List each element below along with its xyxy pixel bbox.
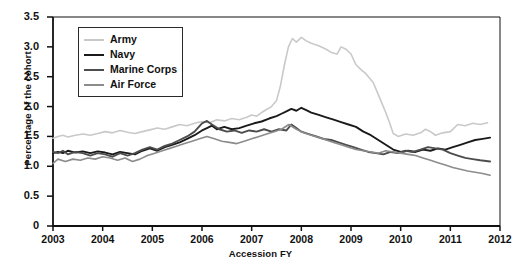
x-tick-label: 2006 [179,233,225,245]
legend-label: Navy [110,48,135,61]
y-tick-label: 3.0 [5,40,39,52]
x-tick-label: 2010 [378,233,424,245]
series-line-marine-corps [53,121,490,162]
legend-item: Air Force [84,77,176,92]
legend-label: Air Force [110,78,156,91]
legend-label: Army [110,33,137,46]
legend-swatch-marine-corps [84,69,104,71]
x-tick-label: 2003 [30,233,76,245]
chart-container: Percentage of the cohort Accession FY 00… [0,0,521,269]
x-tick-label: 2012 [477,233,521,245]
legend-swatch-army [84,39,104,41]
x-tick-label: 2008 [278,233,324,245]
x-tick-label: 2011 [427,233,473,245]
legend-label: Marine Corps [110,63,177,76]
x-tick-label: 2005 [129,233,175,245]
y-tick-label: 0.5 [5,189,39,201]
x-tick-label: 2009 [328,233,374,245]
x-tick-label: 2004 [80,233,126,245]
legend-item: Marine Corps [84,62,176,77]
legend-item: Army [84,32,176,47]
x-tick-label: 2007 [229,233,275,245]
y-tick-label: 0 [5,219,39,231]
y-tick-label: 2.0 [5,100,39,112]
y-tick-label: 1.5 [5,129,39,141]
legend-item: Navy [84,47,176,62]
y-tick-label: 1.0 [5,159,39,171]
y-tick-label: 2.5 [5,70,39,82]
y-tick-label: 3.5 [5,10,39,22]
legend: ArmyNavyMarine CorpsAir Force [78,27,183,97]
legend-swatch-navy [84,54,104,56]
legend-swatch-air-force [84,84,104,86]
